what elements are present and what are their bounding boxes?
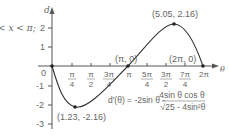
x-tick-2pi: 2π xyxy=(199,70,209,79)
svg-text:π: π xyxy=(88,70,94,79)
x-axis-arrow-icon xyxy=(212,64,219,69)
svg-text:3π: 3π xyxy=(104,70,114,79)
chart-canvas: < x < π; d 2 1 -1 -2 -3 θ 0 π 4 xyxy=(0,0,230,135)
2pi-point xyxy=(201,64,205,68)
svg-text:d'(θ) = -2sin θ -: d'(θ) = -2sin θ - xyxy=(108,95,165,105)
min-point-label: (1.23, -2.16) xyxy=(57,112,106,122)
pi-point xyxy=(126,64,130,68)
svg-text:π: π xyxy=(69,70,75,79)
origin-point xyxy=(50,64,54,68)
derivative-formula: d'(θ) = -2sin θ - 4sin θ cos θ √25 - 4si… xyxy=(108,90,206,112)
x-tick-7pi-4: 7π 4 xyxy=(179,70,191,89)
svg-text:2π: 2π xyxy=(199,70,209,79)
y-tick-neg1: -1 xyxy=(36,81,44,91)
x-tick-3pi-4: 3π 4 xyxy=(103,70,115,89)
y-tick-1: 1 xyxy=(40,42,45,52)
svg-text:√25 - 4sin²θ: √25 - 4sin²θ xyxy=(161,102,206,112)
x-tick-pi: π xyxy=(126,70,132,79)
y-axis-label: d xyxy=(44,5,50,15)
svg-text:3π: 3π xyxy=(161,70,171,79)
y-tick-neg3: -3 xyxy=(36,119,44,129)
cut-text: < x < π; xyxy=(0,23,36,33)
x-axis: θ 0 π 4 π 2 3π 4 π 5π 4 xyxy=(38,63,225,89)
2pi-point-label: (2π, 0) xyxy=(169,54,196,64)
origin-label: 0 xyxy=(41,68,46,78)
max-point xyxy=(172,22,176,26)
pi-point-label: (π, 0) xyxy=(115,54,137,64)
y-axis-arrow-icon xyxy=(50,7,55,14)
x-tick-5pi-4: 5π 4 xyxy=(141,70,153,89)
max-point-label: (5.05, 2.16) xyxy=(152,9,198,19)
x-tick-pi-2: π 2 xyxy=(87,70,95,89)
svg-text:4: 4 xyxy=(183,80,188,89)
svg-text:4: 4 xyxy=(70,80,75,89)
y-tick-neg2: -2 xyxy=(36,100,44,110)
x-axis-label: θ xyxy=(220,65,225,74)
y-tick-2: 2 xyxy=(40,23,45,33)
x-tick-3pi-2: 3π 2 xyxy=(160,70,172,89)
svg-text:2: 2 xyxy=(164,80,169,89)
x-tick-pi-4: π 4 xyxy=(68,70,76,89)
svg-text:2: 2 xyxy=(89,80,94,89)
svg-text:4sin θ cos θ: 4sin θ cos θ xyxy=(159,90,205,100)
svg-text:π: π xyxy=(126,70,132,79)
svg-text:5π: 5π xyxy=(142,70,152,79)
min-point xyxy=(73,105,77,109)
svg-text:4: 4 xyxy=(145,80,150,89)
svg-text:7π: 7π xyxy=(180,70,190,79)
